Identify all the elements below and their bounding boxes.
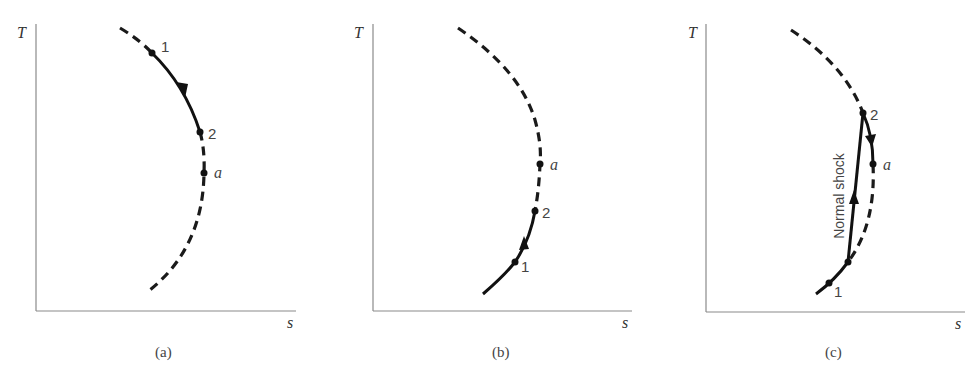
panel-b-label-1: 1: [521, 258, 529, 275]
panel-a-point-2: [197, 129, 204, 136]
panel-a-y-axis-label: T: [17, 24, 27, 41]
panel-c-caption: (c): [825, 344, 842, 361]
panel-c-label-2: 2: [870, 106, 878, 123]
panel-b-label-2: 2: [542, 204, 550, 221]
panel-c-label-1: 1: [834, 283, 842, 300]
panel-b-y-axis-label: T: [354, 24, 364, 41]
panel-c-shock-arrow-icon: [849, 190, 859, 204]
panel-a-label-a: a: [214, 164, 222, 181]
panel-c-point-2: [860, 110, 867, 117]
panel-b-point-2: [532, 208, 539, 215]
panel-a-label-1: 1: [161, 38, 169, 55]
panel-c-shock-start-point: [845, 259, 852, 266]
panel-b: T s 1 2 a (b): [354, 24, 632, 361]
panel-c-y-axis-label: T: [688, 24, 698, 41]
panel-b-point-a: [537, 161, 544, 168]
panel-b-point-1: [512, 259, 519, 266]
panel-a-process-path: [152, 53, 200, 132]
panel-b-label-a: a: [550, 156, 558, 173]
panel-a-arrow-icon: [176, 82, 188, 98]
panel-c-dashed-curve-top: [791, 30, 863, 113]
panel-b-dashed-curve: [458, 28, 540, 211]
panel-a-label-2: 2: [208, 125, 216, 142]
panel-a: T s 1 2 a (a): [17, 24, 296, 361]
panel-c-point-1: [826, 280, 833, 287]
panel-a-point-1: [149, 50, 156, 57]
panel-b-process-path: [483, 211, 535, 294]
panel-c-normal-shock-label: Normal shock: [831, 152, 847, 239]
panel-c-process-path-lower: [816, 262, 848, 294]
panel-c: T s 1 2 a Normal shock (c): [688, 24, 965, 361]
panel-c-point-a: [870, 161, 877, 168]
panel-a-point-a: [201, 170, 208, 177]
panel-b-x-axis-label: s: [622, 314, 628, 331]
panel-a-x-axis-label: s: [287, 314, 293, 331]
panel-b-caption: (b): [492, 344, 510, 361]
panel-c-label-a: a: [883, 156, 891, 173]
panel-a-caption: (a): [155, 344, 172, 361]
panel-a-dashed-curve-bottom: [146, 132, 204, 293]
panel-a-dashed-curve-top: [120, 28, 152, 53]
t-s-diagram-figure: T s 1 2 a (a) T s 1 2 a (b) T: [0, 0, 975, 376]
panel-c-x-axis-label: s: [955, 315, 961, 332]
